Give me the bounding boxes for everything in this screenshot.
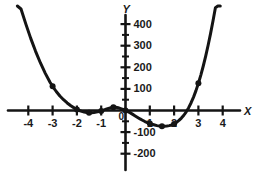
data-point xyxy=(86,110,92,116)
coordinate-plane xyxy=(0,0,257,176)
y-tick-label: 400 xyxy=(134,19,152,30)
x-tick-label: 2 xyxy=(162,118,186,129)
y-tick-label: 200 xyxy=(134,62,152,73)
axes-group xyxy=(8,15,240,170)
x-tick-label: 4 xyxy=(211,118,235,129)
y-tick-label: 300 xyxy=(134,40,152,51)
data-point xyxy=(74,106,80,112)
polynomial-curve xyxy=(17,6,220,126)
y-tick-label: -100 xyxy=(134,127,156,138)
y-tick-label: 100 xyxy=(134,83,152,94)
data-point xyxy=(195,80,201,86)
x-tick-label: -4 xyxy=(16,118,40,129)
x-tick-label: -1 xyxy=(89,118,113,129)
graph-figure: -4-3-2-11234 -200-100100200300400 Y X 0 xyxy=(0,0,257,176)
data-point xyxy=(110,104,116,110)
origin-label: 0 xyxy=(119,112,125,122)
x-tick-label: -2 xyxy=(65,118,89,129)
data-point xyxy=(98,108,104,114)
x-tick-label: 3 xyxy=(186,118,210,129)
x-axis-label: X xyxy=(244,106,251,117)
y-tick-label: -200 xyxy=(134,148,156,159)
y-axis-label: Y xyxy=(123,4,130,15)
x-tick-label: -3 xyxy=(41,118,65,129)
data-point xyxy=(50,83,56,89)
